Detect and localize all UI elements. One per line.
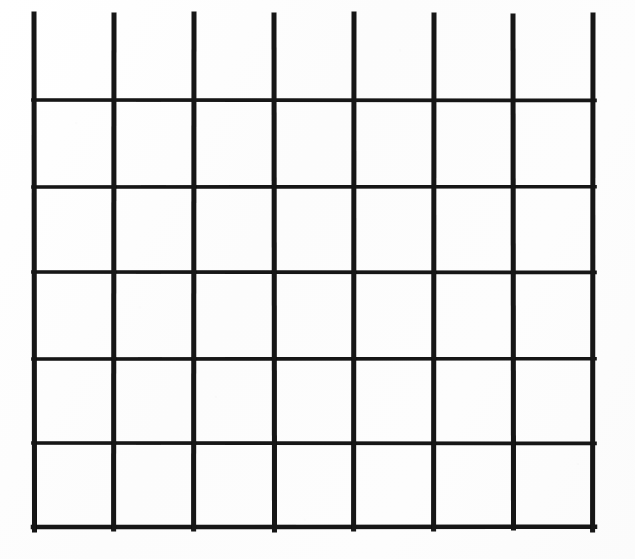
grid-canvas xyxy=(0,0,635,559)
grid-cell-r3-c6 xyxy=(513,272,593,359)
grid-cell-r1-c5 xyxy=(434,100,513,187)
grid-cell-r0-c4 xyxy=(354,14,434,100)
grid-cell-r5-c6 xyxy=(513,443,593,527)
grid-cell-r4-c5 xyxy=(434,359,513,443)
grid-cell-r5-c0 xyxy=(34,443,114,527)
grid-cell-r4-c3 xyxy=(274,359,354,443)
grid-cell-r1-c1 xyxy=(114,100,194,187)
grid-cell-r4-c1 xyxy=(114,359,194,443)
grid-cell-r5-c5 xyxy=(434,443,513,527)
grid-cell-r0-c6 xyxy=(513,14,593,100)
grid-cell-r0-c1 xyxy=(114,14,194,100)
grid-cell-r2-c6 xyxy=(513,187,593,272)
grid-cell-r0-c2 xyxy=(194,14,274,100)
grid-cell-r4-c2 xyxy=(194,359,274,443)
grid-cell-r3-c4 xyxy=(354,272,434,359)
grid-cell-r3-c1 xyxy=(114,272,194,359)
grid-cell-r2-c5 xyxy=(434,187,513,272)
grid-cell-r1-c2 xyxy=(194,100,274,187)
cell-region-group xyxy=(34,14,593,527)
grid-cell-r0-c0 xyxy=(34,14,114,100)
grid-cell-r3-c0 xyxy=(34,272,114,359)
grid-cell-r0-c3 xyxy=(274,14,354,100)
grid-cell-r4-c4 xyxy=(354,359,434,443)
grid-cell-r4-c6 xyxy=(513,359,593,443)
grid-cell-r5-c4 xyxy=(354,443,434,527)
grid-cell-r3-c2 xyxy=(194,272,274,359)
grid-cell-r1-c0 xyxy=(34,100,114,187)
grid-cell-r2-c2 xyxy=(194,187,274,272)
grid-cell-r5-c3 xyxy=(274,443,354,527)
grid-cell-r2-c3 xyxy=(274,187,354,272)
grid-cell-r4-c0 xyxy=(34,359,114,443)
grid-drawing xyxy=(0,0,635,559)
grid-cell-r2-c1 xyxy=(114,187,194,272)
grid-cell-r2-c0 xyxy=(34,187,114,272)
grid-cell-r3-c5 xyxy=(434,272,513,359)
grid-cell-r1-c3 xyxy=(274,100,354,187)
grid-cell-r1-c6 xyxy=(513,100,593,187)
grid-cell-r1-c4 xyxy=(354,100,434,187)
grid-cell-r2-c4 xyxy=(354,187,434,272)
grid-cell-r5-c2 xyxy=(194,443,274,527)
grid-cell-r0-c5 xyxy=(434,14,513,100)
grid-cell-r3-c3 xyxy=(274,272,354,359)
grid-cell-r5-c1 xyxy=(114,443,194,527)
